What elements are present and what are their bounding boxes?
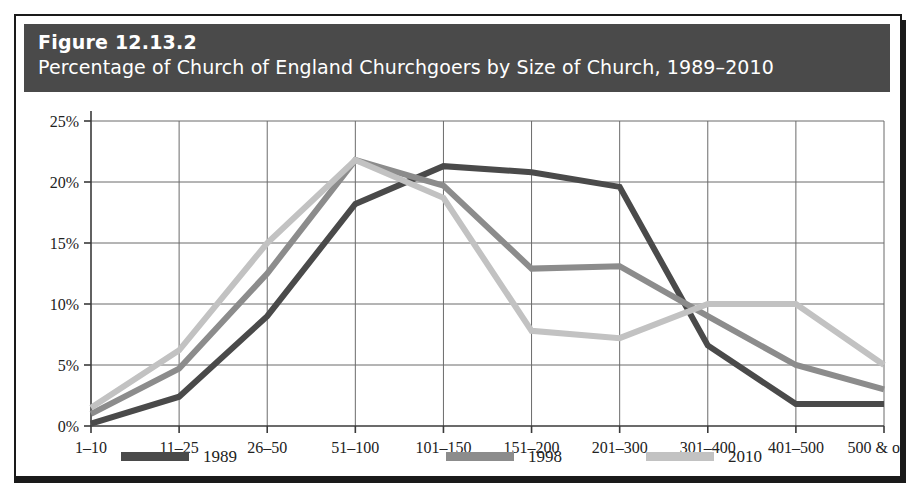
x-tick-label: 51–100 <box>331 439 379 456</box>
chart-area: 0%5%10%15%20%25% 1–1011–2526–5051–100101… <box>16 96 900 476</box>
x-tick-label: 1–10 <box>75 439 107 456</box>
figure-number: Figure 12.13.2 <box>38 30 876 54</box>
x-tick-label: 26–50 <box>247 439 287 456</box>
legend-label-2010: 2010 <box>728 447 762 466</box>
y-tick-label: 5% <box>58 357 79 374</box>
y-tick-label: 10% <box>50 296 79 313</box>
y-tick-label: 15% <box>50 235 79 252</box>
figure-title-bar: Figure 12.13.2 Percentage of Church of E… <box>24 24 890 92</box>
line-chart: 0%5%10%15%20%25% 1–1011–2526–5051–100101… <box>16 96 900 476</box>
legend-swatch-2010 <box>646 452 714 461</box>
series-line-1998 <box>91 160 884 414</box>
data-series <box>91 160 884 424</box>
y-axis-tick-labels: 0%5%10%15%20%25% <box>50 113 79 435</box>
legend-label-1998: 1998 <box>528 447 562 466</box>
legend-label-1989: 1989 <box>203 447 237 466</box>
series-line-1989 <box>91 166 884 423</box>
figure-subtitle: Percentage of Church of England Churchgo… <box>38 54 876 80</box>
x-tick-label: 401–500 <box>768 439 824 456</box>
y-tick-label: 20% <box>50 174 79 191</box>
x-tick-label: 500 & over <box>848 439 900 456</box>
y-tick-label: 0% <box>58 418 79 435</box>
legend-swatch-1989 <box>121 452 189 461</box>
x-tick-label: 201–300 <box>592 439 648 456</box>
legend-swatch-1998 <box>446 452 514 461</box>
figure-panel: Figure 12.13.2 Percentage of Church of E… <box>14 14 902 478</box>
y-tick-label: 25% <box>50 113 79 130</box>
